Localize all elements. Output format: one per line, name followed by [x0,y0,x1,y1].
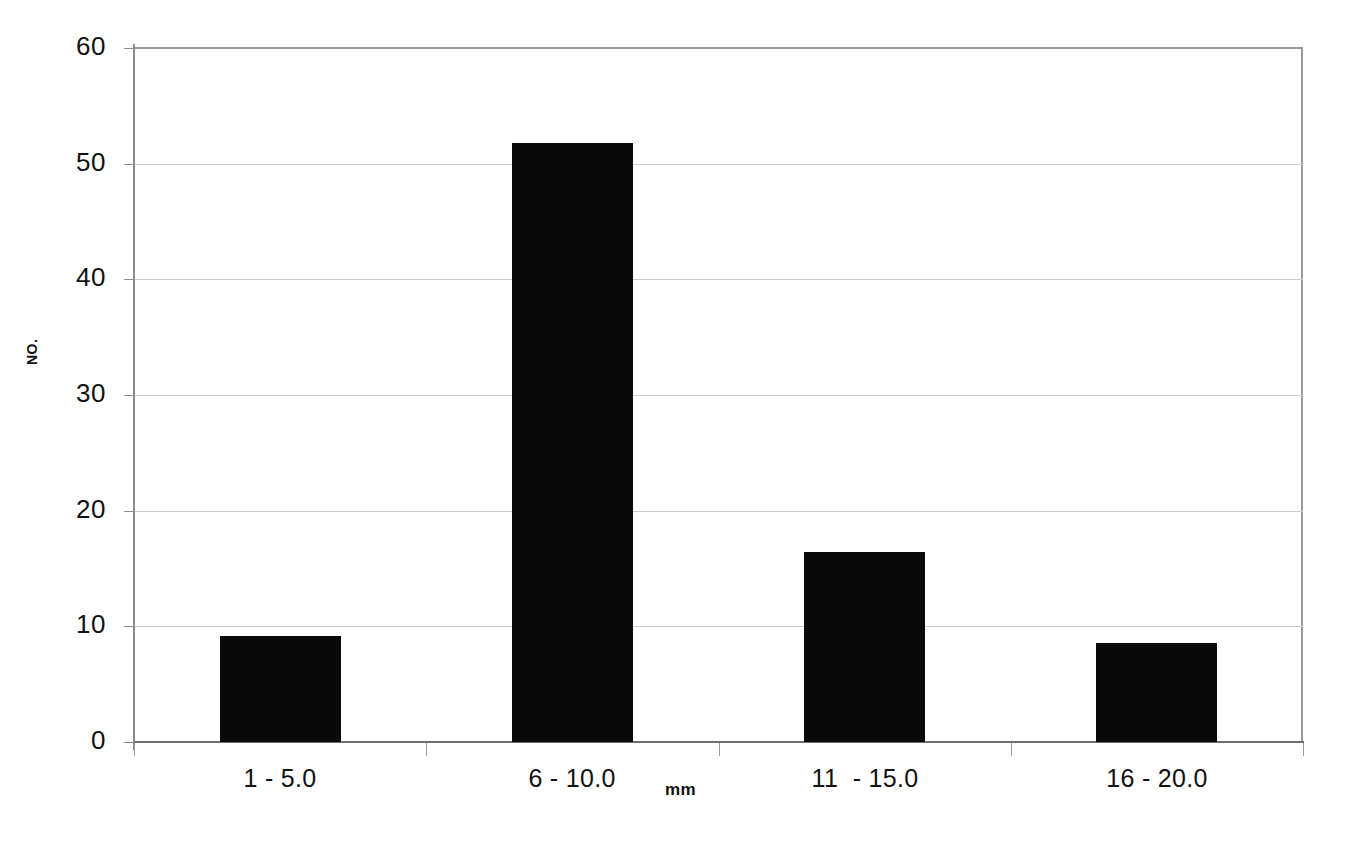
y-axis-tick-label: 50 [76,149,106,175]
bar [512,143,633,742]
gridline [134,395,1303,396]
y-axis-tick-label: 20 [76,496,106,522]
y-axis-tick [124,626,135,627]
y-axis-line [133,44,135,750]
bar [804,552,925,742]
y-axis-title: NO. [24,339,40,365]
gridline [134,279,1303,280]
x-axis-tick [134,743,135,756]
y-axis-tick-label: 60 [76,33,106,59]
y-axis-tick [124,48,135,49]
y-axis-tick [124,279,135,280]
x-axis-tick [1303,743,1304,756]
y-axis-tick-label: 40 [76,264,106,290]
bar [1096,643,1217,742]
y-axis-tick [124,164,135,165]
y-axis-tick [124,511,135,512]
gridline [134,511,1303,512]
plot-top-border [134,47,1303,49]
bar [220,636,341,742]
y-axis-tick-label: 10 [76,611,106,637]
x-axis-tick [719,743,720,756]
x-axis-tick [1011,743,1012,756]
x-axis-title: mm [0,780,1361,800]
gridline [134,164,1303,165]
y-axis-tick [124,395,135,396]
gridline [134,626,1303,627]
y-axis-tick-label: 0 [91,727,106,753]
x-axis-tick [426,743,427,756]
bar-chart: 6050403020100 NO. 1 - 5.06 - 10.011 - 15… [0,0,1361,847]
y-axis-tick-label: 30 [76,380,106,406]
